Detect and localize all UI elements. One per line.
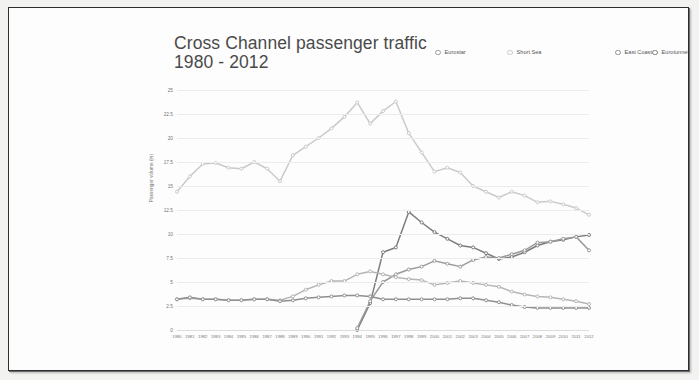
x-axis-tick-label: 1998 bbox=[404, 334, 413, 339]
gridline bbox=[177, 306, 589, 307]
data-point-marker bbox=[536, 201, 539, 204]
x-axis-tick-label: 2010 bbox=[559, 334, 568, 339]
x-axis-tick-label: 2003 bbox=[468, 334, 477, 339]
data-point-marker bbox=[459, 244, 462, 247]
data-point-marker bbox=[575, 300, 578, 303]
data-point-marker bbox=[343, 115, 346, 118]
data-point-marker bbox=[549, 296, 552, 299]
x-axis-tick-label: 2007 bbox=[520, 334, 529, 339]
data-point-marker bbox=[253, 298, 256, 301]
data-point-marker bbox=[369, 122, 372, 125]
data-point-marker bbox=[523, 194, 526, 197]
data-point-marker bbox=[240, 299, 243, 302]
data-point-marker bbox=[433, 298, 436, 301]
data-point-marker bbox=[588, 249, 591, 252]
data-point-marker bbox=[382, 298, 385, 301]
data-point-marker bbox=[485, 190, 488, 193]
data-point-marker bbox=[382, 273, 385, 276]
chart-legend: EurostarShort SeaEast CoastEurotunnel sh… bbox=[435, 47, 615, 58]
data-point-marker bbox=[407, 268, 410, 271]
data-point-marker bbox=[562, 203, 565, 206]
data-point-marker bbox=[291, 299, 294, 302]
data-point-marker bbox=[330, 127, 333, 130]
x-axis-tick-label: 1989 bbox=[288, 334, 297, 339]
data-point-marker bbox=[459, 297, 462, 300]
data-point-marker bbox=[382, 110, 385, 113]
legend-item-label: Eurotunnel shuttle bbox=[662, 49, 689, 55]
data-point-marker bbox=[433, 283, 436, 286]
series-eurotunnel-shuttle bbox=[356, 210, 591, 331]
x-axis-tick-label: 1982 bbox=[198, 334, 207, 339]
data-point-marker bbox=[510, 290, 513, 293]
data-point-marker bbox=[575, 235, 578, 238]
legend-item-eurostar[interactable]: Eurostar bbox=[435, 47, 507, 58]
x-axis-tick-label: 1983 bbox=[211, 334, 220, 339]
legend-item-east-coast[interactable]: East Coast bbox=[615, 47, 652, 58]
data-point-marker bbox=[433, 259, 436, 262]
data-point-marker bbox=[446, 262, 449, 265]
legend-item-short-sea[interactable]: Short Sea bbox=[507, 47, 615, 58]
series-east-coast bbox=[176, 294, 591, 309]
x-axis-tick-label: 1993 bbox=[340, 334, 349, 339]
data-point-marker bbox=[394, 298, 397, 301]
series-line bbox=[177, 102, 589, 215]
y-axis-tick-label: 25 bbox=[168, 88, 173, 93]
x-axis-tick-label: 1980 bbox=[172, 334, 181, 339]
x-axis-tick-label: 2004 bbox=[481, 334, 490, 339]
gridline bbox=[177, 114, 589, 115]
y-axis-tick-label: 20 bbox=[168, 136, 173, 141]
legend-item-label: East Coast bbox=[625, 49, 652, 55]
x-axis-tick-label: 2002 bbox=[456, 334, 465, 339]
data-point-marker bbox=[201, 298, 204, 301]
x-axis-tick-label: 1999 bbox=[417, 334, 426, 339]
gridline bbox=[177, 282, 589, 283]
data-point-marker bbox=[176, 298, 179, 301]
x-axis-tick-label: 1987 bbox=[262, 334, 271, 339]
screenshot-page: Cross Channel passenger traffic 1980 - 2… bbox=[0, 0, 699, 380]
data-point-marker bbox=[497, 285, 500, 288]
y-axis-tick-label: 22.5 bbox=[164, 112, 173, 117]
x-axis-tick-label: 2008 bbox=[533, 334, 542, 339]
data-point-marker bbox=[227, 166, 230, 169]
data-point-marker bbox=[214, 298, 217, 301]
data-point-marker bbox=[382, 251, 385, 254]
data-point-marker bbox=[446, 298, 449, 301]
series-short-sea bbox=[176, 100, 591, 216]
y-axis-tick-label: 15 bbox=[168, 184, 173, 189]
data-point-marker bbox=[356, 273, 359, 276]
legend-item-eurotunnel-shuttle[interactable]: Eurotunnel shuttle bbox=[652, 47, 689, 58]
x-axis-tick-label: 1994 bbox=[353, 334, 362, 339]
data-point-marker bbox=[433, 170, 436, 173]
data-point-marker bbox=[369, 300, 372, 303]
x-axis-tick-label: 1992 bbox=[327, 334, 336, 339]
y-axis-label: Passenger volume (m) bbox=[149, 138, 154, 218]
data-point-marker bbox=[420, 298, 423, 301]
y-axis-tick-label: 17.5 bbox=[164, 160, 173, 165]
gridline bbox=[177, 90, 589, 91]
data-point-marker bbox=[485, 252, 488, 255]
x-axis-tick-label: 1990 bbox=[301, 334, 310, 339]
data-point-marker bbox=[407, 298, 410, 301]
data-point-marker bbox=[510, 253, 513, 256]
data-point-marker bbox=[188, 296, 191, 299]
data-point-marker bbox=[291, 295, 294, 298]
data-point-marker bbox=[420, 221, 423, 224]
x-axis-tick-label: 1996 bbox=[378, 334, 387, 339]
gridline bbox=[177, 138, 589, 139]
legend-marker-icon bbox=[507, 50, 513, 56]
legend-item-label: Short Sea bbox=[517, 49, 542, 55]
series-line bbox=[357, 212, 589, 330]
data-point-marker bbox=[330, 295, 333, 298]
data-point-marker bbox=[356, 294, 359, 297]
gridline bbox=[177, 234, 589, 235]
data-point-marker bbox=[356, 101, 359, 104]
x-axis-tick-label: 1985 bbox=[237, 334, 246, 339]
x-axis-tick-label: 1984 bbox=[224, 334, 233, 339]
legend-marker-icon bbox=[615, 50, 621, 56]
data-point-marker bbox=[279, 180, 282, 183]
scanned-page-frame: Cross Channel passenger traffic 1980 - 2… bbox=[8, 7, 689, 371]
x-axis-tick-label: 2001 bbox=[443, 334, 452, 339]
data-point-marker bbox=[176, 190, 179, 193]
data-point-marker bbox=[497, 196, 500, 199]
data-point-marker bbox=[485, 299, 488, 302]
